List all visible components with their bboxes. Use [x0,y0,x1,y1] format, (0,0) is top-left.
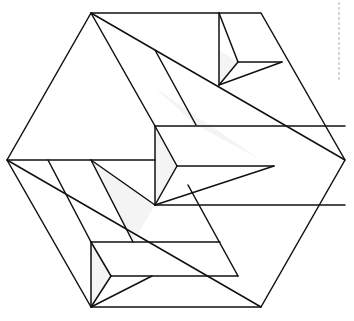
shaded-region [91,160,155,242]
shaded-region [91,242,111,307]
edge-line [188,185,238,276]
edge-line [91,13,345,160]
shaded-region [155,126,177,205]
shaded-region [155,88,261,160]
hexagon-figure [0,0,354,321]
edge-line [48,160,91,242]
internal-lines [7,13,345,307]
diagram-canvas [0,0,354,321]
edge-line [91,13,155,126]
